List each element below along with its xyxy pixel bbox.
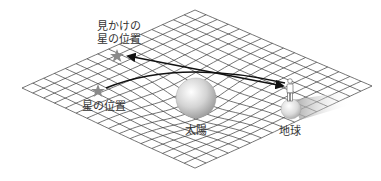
earth-sphere — [281, 99, 301, 119]
actual-star-label: 星の位置 — [82, 100, 126, 113]
sun-label: 太陽 — [185, 124, 207, 137]
earth-label: 地球 — [279, 125, 301, 138]
apparent-star-label: 見かけの 星の位置 — [97, 20, 141, 46]
observer-person-icon — [287, 79, 293, 101]
gravitational-lensing-diagram — [0, 0, 381, 181]
apparent-star-label-line1: 見かけの — [97, 20, 141, 33]
apparent-star-label-line2: 星の位置 — [97, 33, 141, 46]
sun-sphere — [176, 78, 216, 118]
